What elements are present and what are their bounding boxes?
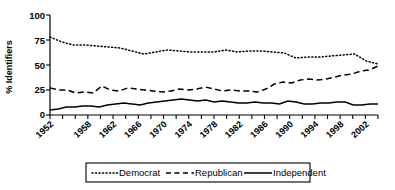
x-tick-label-1998: 1998 [324,119,346,140]
x-tick-label-1978: 1978 [198,119,220,140]
y-tick-label-50: 50 [34,60,45,71]
x-tick-label-1974: 1974 [173,119,195,140]
chart-container: % Identifiers 100 75 50 25 0 19521958196… [0,0,395,190]
x-tick-label-1970: 1970 [147,119,169,140]
y-tick-label-100: 100 [29,10,45,21]
legend-label-republican: Republican [195,167,243,178]
series-line-independent [50,99,378,110]
x-tick-label-1958: 1958 [72,119,94,140]
x-tick-label-1982: 1982 [223,119,245,140]
x-tick-label-1966: 1966 [122,119,144,140]
x-tick-label-1994: 1994 [299,119,321,140]
x-tick-label-2002: 2002 [349,119,371,140]
legend-label-independent: Independent [273,167,326,178]
line-chart-plot: % Identifiers 100 75 50 25 0 19521958196… [0,0,395,190]
y-axis-ticks: 100 75 50 25 0 [29,10,46,120]
series-line-republican [50,66,378,93]
x-tick-label-1962: 1962 [97,119,119,140]
x-axis-tick-labels: 1952195819621966197019741978198219861990… [34,119,371,140]
y-axis-label: % Identifiers [4,40,14,94]
x-tick-label-1986: 1986 [248,119,270,140]
y-tick-label-25: 25 [34,84,45,95]
y-tick-label-75: 75 [34,35,45,46]
y-tick-label-0: 0 [40,109,45,120]
chart-legend: Democrat Republican Independent [86,163,326,182]
x-tick-label-1990: 1990 [273,119,295,140]
x-tick-label-1952: 1952 [34,119,56,140]
legend-label-democrat: Democrat [119,167,161,178]
series-line-democrat [50,37,378,64]
